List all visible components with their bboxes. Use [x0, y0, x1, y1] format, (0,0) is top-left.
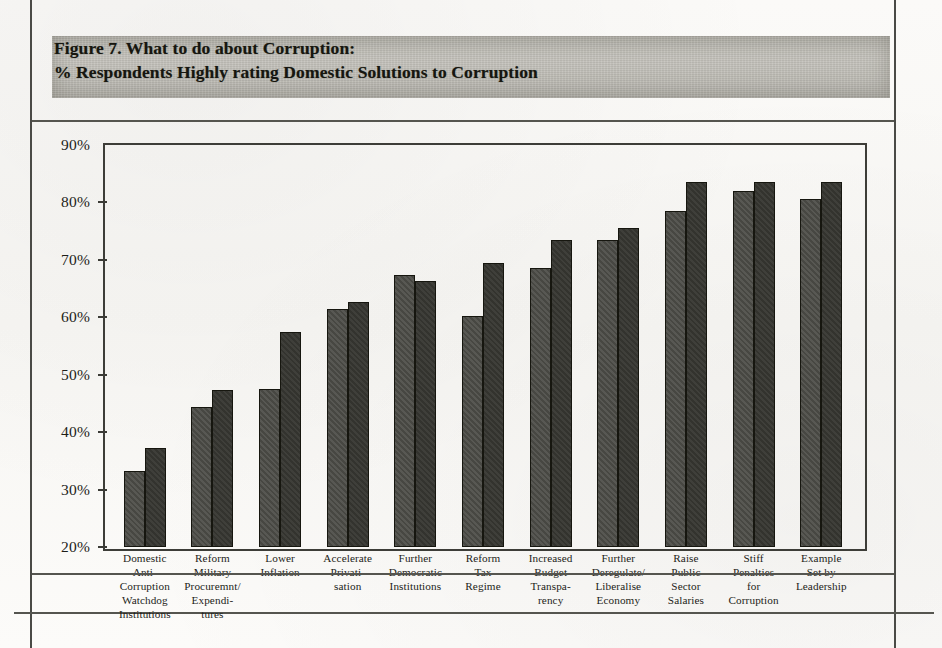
bar-group — [382, 145, 450, 547]
x-axis-label-line: Further — [383, 551, 449, 565]
bar-series-1 — [124, 471, 145, 547]
x-axis-category-label: FurtherDeregulate/LiberaliseEconomy — [584, 551, 652, 622]
bar-series-2 — [415, 281, 436, 547]
bar-group — [179, 145, 247, 547]
bar-series-2 — [754, 182, 775, 547]
x-axis-label-line: Stiff — [721, 551, 787, 565]
figure-title-line-1: Figure 7. What to do about Corruption: — [54, 36, 884, 60]
bar-series-2 — [280, 332, 301, 547]
bar-series-1 — [191, 407, 212, 547]
x-axis-label-line: Sector — [653, 579, 719, 593]
bar-group — [246, 145, 314, 547]
x-axis-category-label: LowerInflation — [246, 551, 314, 622]
bar-series-1 — [665, 211, 686, 547]
rule-below-chart — [32, 573, 894, 575]
x-axis-label-line: Salaries — [653, 593, 719, 607]
bar-series-1 — [394, 275, 415, 547]
bar-series-2 — [212, 390, 233, 547]
bar-groups — [105, 145, 861, 547]
y-axis-tick-mark — [98, 201, 107, 203]
bar-series-2 — [483, 263, 504, 547]
x-axis-label-line: Procuremnt/ — [180, 579, 246, 593]
bar-group — [111, 145, 179, 547]
x-axis-label-line: rency — [518, 593, 584, 607]
x-axis-label-line: Further — [585, 551, 651, 565]
x-axis-label-line: Increased — [518, 551, 584, 565]
x-axis-label-line: Domestic — [112, 551, 178, 565]
x-axis-category-label: ExampleSet byLeadership — [787, 551, 855, 622]
y-axis-tick-label: 80% — [61, 193, 90, 211]
bar-group — [517, 145, 585, 547]
bar-series-1 — [327, 309, 348, 547]
x-axis-category-label: IncreasedBudgetTranspa-rency — [517, 551, 585, 622]
bar-group — [787, 145, 855, 547]
bar-series-2 — [551, 240, 572, 547]
x-axis-label-line: Watchdog — [112, 593, 178, 607]
y-axis-tick-label: 20% — [61, 538, 90, 556]
y-axis-tick-label: 50% — [61, 366, 90, 384]
bar-series-2 — [618, 228, 639, 547]
bar-series-2 — [686, 182, 707, 547]
figure-container: Figure 7. What to do about Corruption: %… — [32, 28, 894, 606]
bar-group — [314, 145, 382, 547]
page-right-rule — [894, 0, 896, 648]
bar-group — [720, 145, 788, 547]
x-axis-label-line: Accelerate — [315, 551, 381, 565]
bar-series-1 — [800, 199, 821, 547]
y-axis-tick-label: 40% — [61, 423, 90, 441]
bar-series-1 — [462, 316, 483, 547]
x-axis-label-line: Reform — [450, 551, 516, 565]
x-axis-label-line: Institutions — [112, 607, 178, 621]
x-axis-label-line: tures — [180, 607, 246, 621]
x-axis-label-line: Institutions — [383, 579, 449, 593]
x-axis-label-line: Corruption — [112, 579, 178, 593]
figure-title: Figure 7. What to do about Corruption: %… — [54, 36, 884, 84]
bar-series-2 — [145, 448, 166, 547]
y-axis-tick-mark — [98, 374, 107, 376]
x-axis-label-line: sation — [315, 579, 381, 593]
x-axis-category-label: ReformTaxRegime — [449, 551, 517, 622]
figure-title-line-2: % Respondents Highly rating Domestic Sol… — [54, 60, 884, 84]
x-axis-label-line: Reform — [180, 551, 246, 565]
bar-series-1 — [597, 240, 618, 547]
y-axis: 90%80%70%60%50%40%30%20% — [48, 114, 100, 514]
x-axis-label-line: Raise — [653, 551, 719, 565]
y-axis-tick-mark — [98, 489, 107, 491]
x-axis-label-line: Economy — [585, 593, 651, 607]
x-axis-category-label: AcceleratePrivati-sation — [314, 551, 382, 622]
x-axis-label-line: Expendi- — [180, 593, 246, 607]
x-axis-label-line: Corruption — [721, 593, 787, 607]
y-axis-tick-mark — [98, 259, 107, 261]
bar-series-1 — [259, 389, 280, 547]
x-axis-labels: DomesticAnti-CorruptionWatchdogInstituti… — [105, 551, 861, 622]
bar-group — [584, 145, 652, 547]
chart-plot-area: 90%80%70%60%50%40%30%20% DomesticAnti-Co… — [32, 114, 894, 574]
x-axis-label-line: Liberalise — [585, 579, 651, 593]
x-axis-label-line: Leadership — [788, 579, 854, 593]
bar-series-2 — [821, 182, 842, 547]
x-axis-category-label: StiffPenaltiesforCorruption — [720, 551, 788, 622]
x-axis-label-line: Regime — [450, 579, 516, 593]
y-axis-tick-label: 60% — [61, 308, 90, 326]
bar-series-2 — [348, 302, 369, 547]
y-axis-tick-label: 30% — [61, 481, 90, 499]
y-axis-tick-label: 70% — [61, 251, 90, 269]
bar-group — [449, 145, 517, 547]
y-axis-tick-mark — [98, 546, 107, 548]
x-axis-category-label: ReformMilitaryProcuremnt/Expendi-tures — [179, 551, 247, 622]
bar-series-1 — [530, 268, 551, 547]
y-axis-tick-mark — [98, 316, 107, 318]
x-axis-label-line: for — [721, 579, 787, 593]
bar-series-1 — [733, 191, 754, 547]
x-axis-label-line: Transpa- — [518, 579, 584, 593]
y-axis-tick-mark — [98, 431, 107, 433]
x-axis-category-label: DomesticAnti-CorruptionWatchdogInstituti… — [111, 551, 179, 622]
x-axis-label-line: Example — [788, 551, 854, 565]
bar-group — [652, 145, 720, 547]
x-axis-label-line: Lower — [247, 551, 313, 565]
y-axis-tick-label: 90% — [61, 136, 90, 154]
x-axis-category-label: RaisePublicSectorSalaries — [652, 551, 720, 622]
x-axis-category-label: FurtherDemocraticInstitutions — [382, 551, 450, 622]
